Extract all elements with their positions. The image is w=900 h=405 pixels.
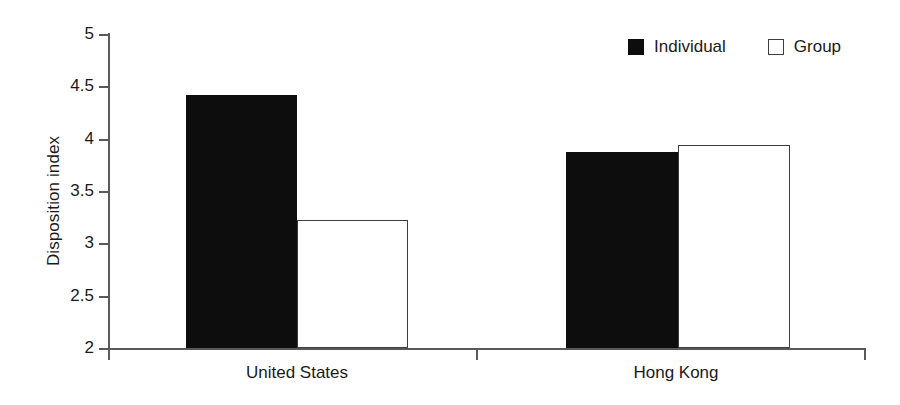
y-axis-tick-label: 3 — [42, 234, 94, 251]
legend-label-individual: Individual — [654, 38, 726, 55]
y-axis-tick-mark — [99, 348, 108, 350]
x-axis-tick-mark — [108, 350, 110, 360]
bar-individual-hong-kong — [566, 152, 678, 348]
category-label: Hong Kong — [566, 363, 786, 383]
y-axis-line — [108, 33, 110, 350]
y-axis-tick-mark — [99, 139, 108, 141]
legend-label-group: Group — [794, 38, 841, 55]
y-axis-tick-label: 3.5 — [42, 182, 94, 199]
legend-item-individual: Individual — [628, 38, 726, 55]
y-axis-tick-label: 4 — [42, 130, 94, 147]
y-axis-tick-label: 2.5 — [42, 287, 94, 304]
x-axis-tick-mark — [476, 350, 478, 360]
y-axis-tick-label: 5 — [42, 25, 94, 42]
y-axis-tick-mark — [99, 243, 108, 245]
legend-item-group: Group — [768, 38, 841, 55]
y-axis-tick-mark — [99, 296, 108, 298]
chart-legend: Individual Group — [628, 38, 841, 55]
y-axis-tick-label: 4.5 — [42, 77, 94, 94]
bar-group-united-states — [297, 220, 408, 348]
bar-individual-united-states — [186, 95, 297, 348]
y-axis-title: Disposition index — [44, 91, 64, 311]
y-axis-tick-label: 2 — [42, 339, 94, 356]
x-axis-tick-mark — [864, 350, 866, 360]
y-axis-tick-mark — [99, 191, 108, 193]
category-label: United States — [187, 363, 407, 383]
bar-chart: Disposition index 54.543.532.52 United S… — [0, 0, 900, 405]
bar-group-hong-kong — [678, 145, 790, 348]
y-axis-tick-mark — [99, 86, 108, 88]
legend-swatch-filled-icon — [628, 39, 644, 55]
y-axis-tick-mark — [99, 34, 108, 36]
legend-swatch-hollow-icon — [768, 39, 784, 55]
x-axis-line — [108, 348, 865, 350]
